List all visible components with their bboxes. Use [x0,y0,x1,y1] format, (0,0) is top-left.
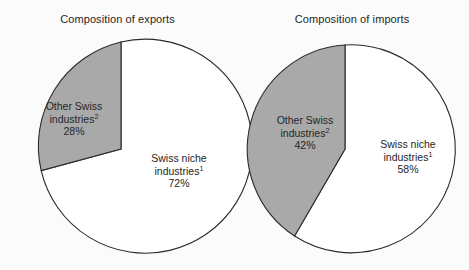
pie-chart-figure: Composition of exports Other Swiss indus… [0,0,469,270]
chart-panel-exports: Composition of exports Other Swiss indus… [0,0,235,270]
pie-imports [235,0,469,270]
pie-exports [0,0,235,270]
pie-slice-exports-other [38,42,121,171]
chart-panel-imports: Composition of imports Other Swiss indus… [235,0,469,270]
